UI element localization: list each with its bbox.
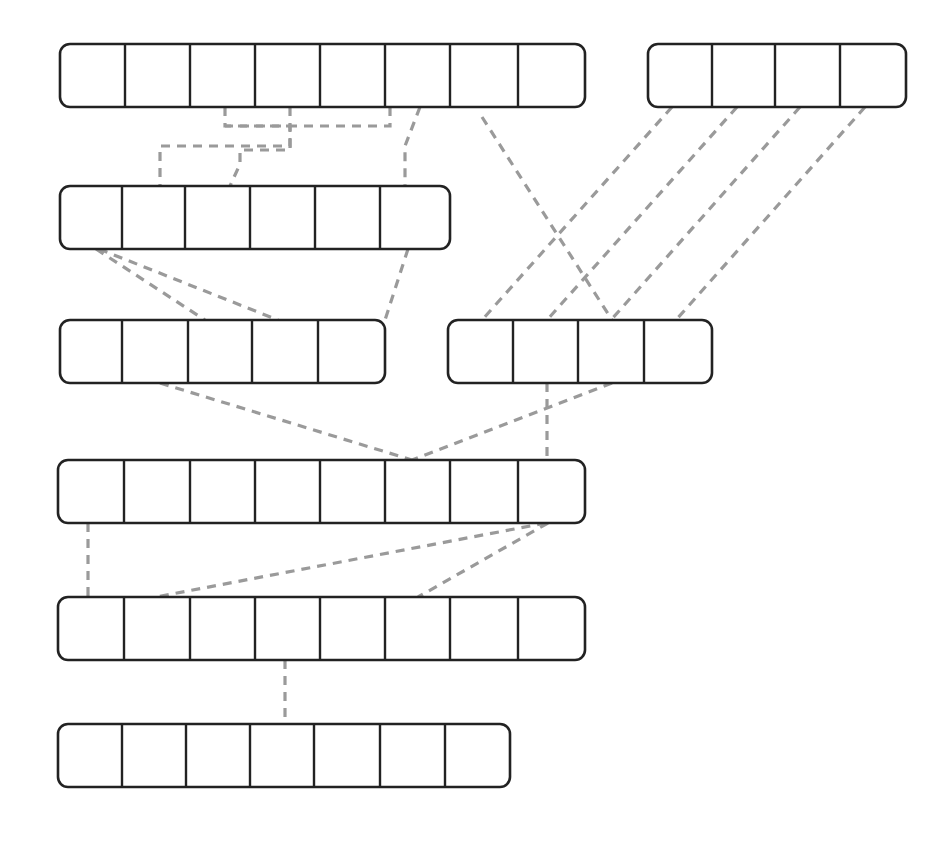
track-cell[interactable] [188, 320, 252, 383]
row-layer [58, 44, 906, 787]
connector-line [676, 107, 865, 320]
track-cell[interactable] [578, 320, 644, 383]
track-cell[interactable] [60, 320, 122, 383]
connector-line [385, 249, 408, 320]
track-cell[interactable] [122, 320, 188, 383]
track-row[interactable] [58, 724, 510, 787]
track-cell[interactable] [513, 320, 578, 383]
track-row[interactable] [448, 320, 712, 383]
track-cell[interactable] [320, 44, 385, 107]
track-cell[interactable] [380, 186, 450, 249]
connector-line [418, 523, 548, 597]
track-cell[interactable] [518, 460, 585, 523]
track-cell[interactable] [190, 460, 255, 523]
track-diagram [0, 0, 952, 841]
track-cell[interactable] [186, 724, 250, 787]
track-row[interactable] [648, 44, 906, 107]
track-cell[interactable] [190, 597, 255, 660]
connector-line [412, 383, 612, 460]
track-cell[interactable] [318, 320, 385, 383]
track-cell[interactable] [320, 597, 385, 660]
track-cell[interactable] [775, 44, 840, 107]
connector-line [99, 249, 278, 320]
track-cell[interactable] [185, 186, 250, 249]
track-cell[interactable] [518, 597, 585, 660]
track-cell[interactable] [124, 460, 190, 523]
track-cell[interactable] [448, 320, 513, 383]
track-row[interactable] [60, 186, 450, 249]
track-cell[interactable] [320, 460, 385, 523]
track-cell[interactable] [840, 44, 906, 107]
track-cell[interactable] [125, 44, 190, 107]
track-cell[interactable] [385, 460, 450, 523]
track-cell[interactable] [450, 460, 518, 523]
track-cell[interactable] [314, 724, 380, 787]
diagram-canvas [0, 0, 952, 841]
track-cell[interactable] [252, 320, 318, 383]
track-cell[interactable] [255, 460, 320, 523]
connector-line [160, 383, 412, 460]
track-cell[interactable] [250, 186, 315, 249]
track-cell[interactable] [122, 186, 185, 249]
connector-line [405, 107, 420, 186]
connector-line [482, 117, 612, 320]
track-cell[interactable] [518, 44, 585, 107]
connector-line [160, 107, 290, 186]
connector-line [156, 523, 546, 597]
track-cell[interactable] [315, 186, 380, 249]
track-cell[interactable] [380, 724, 445, 787]
track-cell[interactable] [385, 597, 450, 660]
track-cell[interactable] [450, 44, 518, 107]
track-cell[interactable] [58, 597, 124, 660]
track-cell[interactable] [450, 597, 518, 660]
track-cell[interactable] [190, 44, 255, 107]
track-cell[interactable] [60, 186, 122, 249]
track-cell[interactable] [58, 724, 122, 787]
track-cell[interactable] [712, 44, 775, 107]
track-cell[interactable] [255, 44, 320, 107]
track-cell[interactable] [58, 460, 124, 523]
track-cell[interactable] [122, 724, 186, 787]
track-cell[interactable] [445, 724, 510, 787]
track-cell[interactable] [250, 724, 314, 787]
track-row[interactable] [60, 320, 385, 383]
track-cell[interactable] [124, 597, 190, 660]
track-row[interactable] [60, 44, 585, 107]
track-row[interactable] [58, 460, 585, 523]
connector-line [547, 107, 737, 320]
connector-line [225, 107, 390, 126]
track-cell[interactable] [60, 44, 125, 107]
track-cell[interactable] [648, 44, 712, 107]
track-row[interactable] [58, 597, 585, 660]
track-cell[interactable] [644, 320, 712, 383]
track-cell[interactable] [255, 597, 320, 660]
track-cell[interactable] [385, 44, 450, 107]
